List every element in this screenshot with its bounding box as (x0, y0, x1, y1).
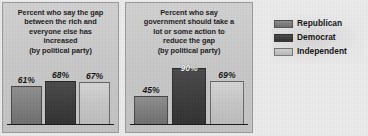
bar-independent (79, 82, 110, 124)
legend-item-label: Independent (297, 47, 347, 56)
legend-item-label: Democrat (297, 33, 336, 42)
legend-swatch-icon (274, 34, 293, 42)
bar-value-label: 61% (18, 75, 35, 85)
x-axis-line (130, 124, 248, 126)
panel-title: Percent who say the gap between the rich… (6, 8, 115, 55)
plot-area: 61% 68% 67% (3, 58, 118, 132)
chart-legend: Republican Democrat Independent (272, 14, 364, 63)
bar-group: 45% 90% 69% (134, 62, 244, 124)
chart-panel-gap-increased: Percent who say the gap between the rich… (2, 2, 119, 133)
chart-infographic: Percent who say the gap between the rich… (0, 0, 368, 136)
bar-value-label: 45% (142, 85, 159, 95)
legend-item-republican: Republican (274, 17, 362, 30)
bar-item-independent: 69% (210, 62, 244, 124)
bar-value-label: 67% (86, 71, 103, 81)
legend-item-democrat: Democrat (274, 31, 362, 44)
bar-item-democrat: 68% (45, 62, 76, 124)
bar-value-label: 69% (218, 70, 235, 80)
bar-republican (134, 96, 168, 124)
bar-item-independent: 67% (79, 62, 110, 124)
bar-value-label: 68% (52, 70, 69, 80)
bar-democrat (45, 81, 76, 123)
bar-item-republican: 45% (134, 62, 168, 124)
bar-democrat (172, 68, 206, 124)
bar-independent (210, 81, 244, 124)
panel-title: Percent who say government should take a… (129, 8, 249, 55)
plot-area: 45% 90% 69% (126, 58, 252, 132)
bar-group: 61% 68% 67% (11, 62, 110, 124)
bar-value-label: 90% (180, 63, 197, 73)
bar-republican (11, 86, 42, 124)
bar-item-republican: 61% (11, 62, 42, 124)
bar-item-democrat: 90% (172, 62, 206, 124)
legend-swatch-icon (274, 20, 293, 28)
x-axis-line (7, 124, 114, 126)
chart-panel-government-action: Percent who say government should take a… (125, 2, 253, 133)
legend-swatch-icon (274, 48, 293, 56)
legend-item-independent: Independent (274, 45, 362, 58)
legend-item-label: Republican (297, 19, 342, 28)
